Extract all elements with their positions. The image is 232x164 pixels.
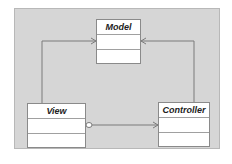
attributes-section bbox=[28, 119, 85, 134]
operations-section bbox=[28, 134, 85, 148]
class-controller[interactable]: Controller bbox=[158, 102, 210, 147]
class-name: Model bbox=[97, 20, 140, 35]
operations-section bbox=[97, 50, 140, 64]
operations-section bbox=[159, 133, 209, 147]
attributes-section bbox=[159, 118, 209, 133]
view-model-association bbox=[42, 41, 96, 103]
attributes-section bbox=[97, 35, 140, 50]
controller-model-association bbox=[141, 41, 194, 102]
class-name: Controller bbox=[159, 103, 209, 118]
class-view[interactable]: View bbox=[27, 103, 86, 148]
class-model[interactable]: Model bbox=[96, 19, 141, 64]
class-name: View bbox=[28, 104, 85, 119]
aggregation-diamond-icon bbox=[86, 123, 92, 128]
